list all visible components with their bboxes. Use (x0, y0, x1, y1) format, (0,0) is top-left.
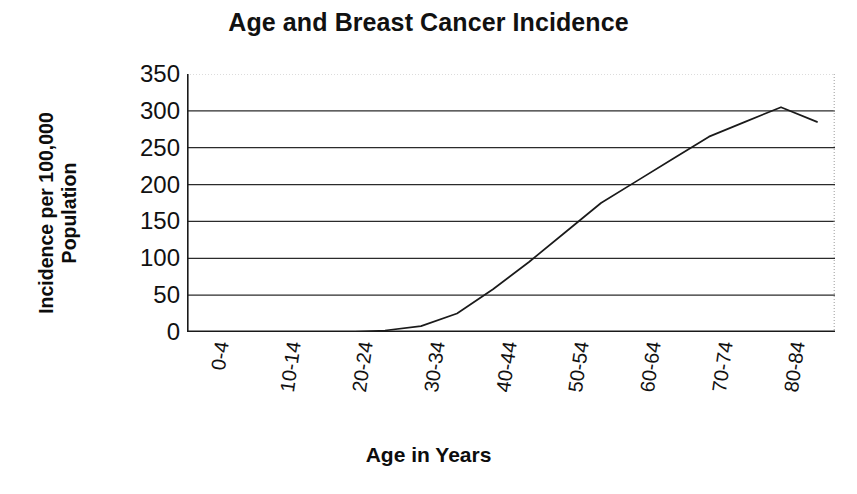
y-axis-title: Incidence per 100,000 Population (35, 63, 81, 363)
x-axis-tick-label: 0-4 (208, 340, 232, 371)
x-axis-tick-label: 70-74 (709, 340, 736, 393)
chart-title: Age and Breast Cancer Incidence (0, 8, 857, 37)
y-axis-tick-labels: 350300250200150100500 (108, 60, 180, 350)
x-axis-tick-label: 40-44 (493, 340, 520, 393)
plot-svg (187, 74, 835, 332)
y-axis-title-line-1: Incidence per 100,000 (35, 63, 58, 363)
y-axis-tick-label: 250 (108, 136, 180, 160)
plot-area (187, 74, 835, 332)
x-axis-tick-label: 80-84 (781, 340, 808, 393)
y-axis-tick-label: 350 (108, 62, 180, 86)
x-axis-tick-label: 50-54 (565, 340, 592, 393)
x-axis-title: Age in Years (0, 443, 857, 467)
y-axis-tick-label: 50 (108, 283, 180, 307)
x-axis-tick-label: 60-64 (637, 340, 664, 393)
chart-figure: Age and Breast Cancer Incidence Incidenc… (0, 0, 857, 494)
y-axis-tick-label: 0 (108, 320, 180, 344)
y-axis-tick-label: 300 (108, 99, 180, 123)
series-line-breast-cancer-incidence (205, 107, 817, 332)
y-axis-tick-label: 200 (108, 173, 180, 197)
y-axis-title-line-2: Population (58, 63, 81, 363)
gridlines (187, 74, 835, 332)
x-axis-tick-label: 30-34 (421, 340, 448, 393)
x-axis-tick-label: 20-24 (349, 340, 376, 393)
x-axis-tick-labels: 0-410-1420-2430-3440-4450-5460-6470-7480… (187, 332, 835, 442)
x-axis-tick-label: 10-14 (277, 340, 304, 393)
y-axis-tick-label: 100 (108, 246, 180, 270)
y-axis-tick-label: 150 (108, 209, 180, 233)
